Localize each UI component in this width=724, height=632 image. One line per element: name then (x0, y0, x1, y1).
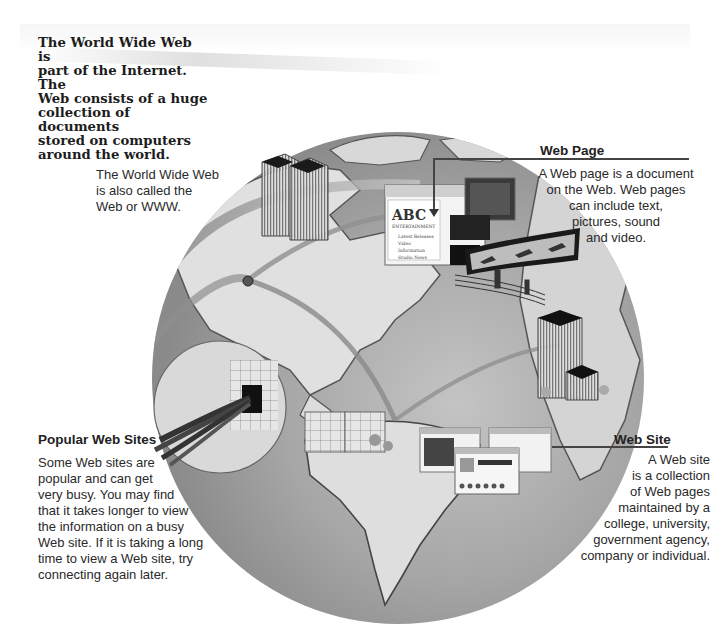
web-page-line: can include text, (536, 198, 696, 214)
web-site-line: of Web pages (554, 484, 710, 500)
popular-sites-line: connecting again later. (38, 567, 208, 583)
svg-text:Information: Information (398, 248, 425, 253)
svg-text:Latest Releases: Latest Releases (398, 234, 434, 239)
popular-sites-line: very busy. You may find (38, 487, 208, 503)
www-alias-note: The World Wide Web is also called the We… (96, 167, 246, 215)
popular-sites-line: Web site. If it is taking a long (38, 535, 208, 551)
web-page-heading: Web Page (540, 143, 604, 159)
magnified-lens-busy-site (154, 341, 286, 473)
svg-text:ENTERTAINMENT: ENTERTAINMENT (392, 224, 435, 229)
server-towers (262, 154, 328, 240)
web-site-line: A Web site (554, 452, 710, 468)
svg-text:ABC: ABC (391, 207, 426, 223)
network-node (243, 276, 253, 286)
web-page-line: pictures, sound (536, 214, 696, 230)
web-site-line: is a collection (554, 468, 710, 484)
www-note-line: The World Wide Web (96, 167, 246, 183)
web-site-line: college, university, (554, 516, 710, 532)
svg-text:Studio News: Studio News (398, 255, 428, 260)
web-page-line: on the Web. Web pages (536, 182, 696, 198)
popular-sites-heading: Popular Web Sites (38, 432, 156, 448)
arrow-down-icon (429, 209, 439, 217)
web-page-leader-line (433, 158, 689, 160)
web-page-line: A Web page is a document (536, 166, 696, 182)
popular-sites-line: Some Web sites are (38, 455, 208, 471)
www-note-line: is also called the (96, 183, 246, 199)
web-site-line: government agency, (554, 532, 710, 548)
web-page-description: A Web page is a document on the Web. Web… (536, 166, 696, 246)
popular-sites-line: popular and can get (38, 471, 208, 487)
svg-text:Video: Video (397, 241, 411, 246)
web-site-line: company or individual. (554, 548, 710, 564)
busy-site-building (305, 412, 393, 452)
web-site-description: A Web site is a collection of Web pages … (554, 452, 710, 564)
popular-sites-line: the information on a busy (38, 519, 208, 535)
www-note-line: Web or WWW. (96, 199, 246, 215)
web-page-line: and video. (536, 230, 696, 246)
web-page-leader-drop (433, 158, 435, 214)
web-site-leader-line (552, 446, 668, 448)
popular-sites-line: that it takes longer to view (38, 503, 208, 519)
popular-sites-line: time to view a Web site, try (38, 551, 208, 567)
web-site-line: maintained by a (554, 500, 710, 516)
popular-sites-description: Some Web sites are popular and can get v… (38, 455, 208, 583)
